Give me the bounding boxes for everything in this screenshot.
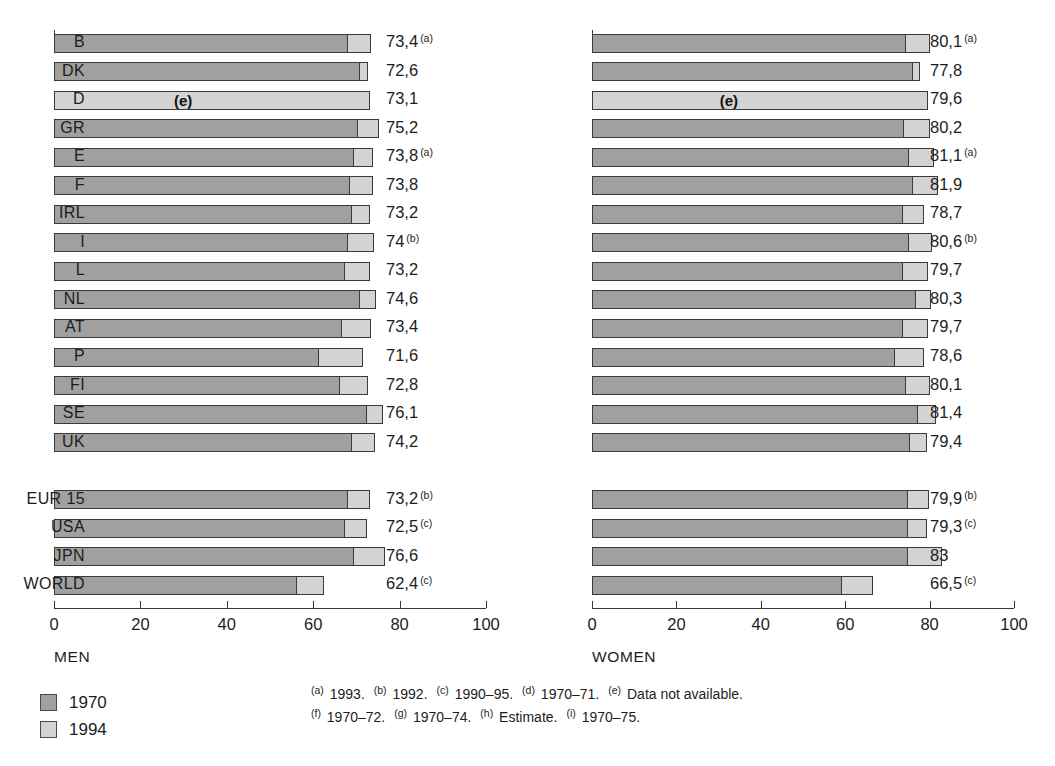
bar-segment-1970 <box>592 376 905 395</box>
bar-segment-1970 <box>54 348 318 367</box>
bar <box>54 290 376 309</box>
bar <box>54 34 371 53</box>
bar-value-label: 75,2 <box>386 118 418 137</box>
bar-value-label: 74(b) <box>386 232 419 251</box>
bar <box>54 576 324 595</box>
legend-item[interactable]: 1970 <box>40 689 107 716</box>
bar-segment-1994 <box>894 348 924 367</box>
bar-segment-1994 <box>912 62 920 81</box>
value-footnote-mark: (b) <box>964 232 977 244</box>
footnote-mark: (i) <box>566 707 575 719</box>
bar-segment-1970 <box>592 205 902 224</box>
bar-segment-1994 <box>54 91 370 110</box>
bar-row-label: USA <box>5 518 85 536</box>
bar-segment-1970 <box>54 34 347 53</box>
bar <box>592 205 924 224</box>
women-x-axis-line <box>592 608 1014 609</box>
bar <box>54 148 373 167</box>
bar-row-label: NL <box>5 290 85 308</box>
bar-segment-1994 <box>347 233 373 252</box>
footnote-entry: (c) 1990–95. <box>437 686 514 702</box>
bar-value-label: 73,2 <box>386 260 418 279</box>
bar-value-label: 80,2 <box>930 118 962 137</box>
footnote-entry: (a) 1993. <box>311 686 365 702</box>
value-footnote-mark: (c) <box>420 574 432 586</box>
bar-row-label: P <box>5 347 85 365</box>
bar-row-label: SE <box>5 404 85 422</box>
bar <box>592 262 928 281</box>
bar-segment-1994 <box>359 62 367 81</box>
bar-value-label: 80,1(a) <box>930 32 977 51</box>
bar-row-label: UK <box>5 433 85 451</box>
bar-value-label: 79,7 <box>930 260 962 279</box>
bar-segment-1994 <box>902 205 924 224</box>
bar-segment-1970 <box>592 547 907 566</box>
bar-row-label: F <box>5 176 85 194</box>
bar-segment-1970 <box>592 405 917 424</box>
bar-row-label: L <box>5 261 85 279</box>
axis-tick <box>54 601 55 608</box>
bar-value-label: 72,8 <box>386 375 418 394</box>
bar-segment-1994 <box>351 433 375 452</box>
bar-value-label: 80,6(b) <box>930 232 977 251</box>
bar-segment-1970 <box>592 62 912 81</box>
axis-tick-label: 60 <box>836 615 854 634</box>
bar-segment-1970 <box>592 262 902 281</box>
bar-value-label: 73,8 <box>386 175 418 194</box>
bar-segment-1994 <box>339 376 369 395</box>
legend-label: 1994 <box>69 720 107 740</box>
value-footnote-mark: (a) <box>420 32 433 44</box>
axis-tick <box>140 601 141 608</box>
bar-segment-1994 <box>344 519 367 538</box>
bar <box>592 576 873 595</box>
axis-tick-label: 40 <box>752 615 770 634</box>
bar-row-label: JPN <box>5 547 85 565</box>
bar-segment-1994 <box>841 576 873 595</box>
bar-value-label: 79,7 <box>930 317 962 336</box>
footnote-mark: (g) <box>394 707 407 719</box>
footnote-mark: (b) <box>374 684 387 696</box>
bar <box>54 376 368 395</box>
bar-segment-1970 <box>592 119 903 138</box>
bar-segment-1970 <box>592 290 915 309</box>
axis-tick-label: 20 <box>667 615 685 634</box>
bar-value-label: 73,4 <box>386 317 418 336</box>
bar-segment-1970 <box>54 576 296 595</box>
bar-row-label: GR <box>5 119 85 137</box>
estimate-marker: (e) <box>720 92 738 109</box>
bar <box>54 348 363 367</box>
footnote-entry: (g) 1970–74. <box>394 709 471 725</box>
value-footnote-mark: (b) <box>420 489 433 501</box>
bar <box>54 547 385 566</box>
axis-tick <box>486 601 487 608</box>
axis-tick-label: 0 <box>49 615 58 634</box>
bar-row-label: FI <box>5 376 85 394</box>
bar-segment-1970 <box>592 490 907 509</box>
bar-segment-1994 <box>353 547 385 566</box>
legend-swatch-icon <box>40 721 57 738</box>
axis-tick-label: 100 <box>472 615 500 634</box>
bar-segment-1970 <box>592 519 907 538</box>
axis-tick-label: 80 <box>390 615 408 634</box>
bar <box>592 62 920 81</box>
legend-item[interactable]: 1994 <box>40 716 107 743</box>
bar-segment-1994 <box>905 376 930 395</box>
bar <box>592 376 930 395</box>
chart-legend: 19701994 <box>40 689 107 743</box>
bar <box>54 405 383 424</box>
bar-segment-1970 <box>54 405 366 424</box>
value-footnote-mark: (a) <box>964 32 977 44</box>
bar <box>592 519 927 538</box>
footnote-entry: (h) Estimate. <box>480 709 557 725</box>
bar-segment-1994 <box>341 319 371 338</box>
axis-tick <box>400 601 401 608</box>
bar-segment-1994 <box>366 405 383 424</box>
bar-segment-1970 <box>592 148 908 167</box>
bar-segment-1994 <box>347 490 370 509</box>
bar-value-label: 73,2(b) <box>386 489 433 508</box>
bar: (e) <box>592 91 928 110</box>
bar <box>592 290 931 309</box>
bar-segment-1994 <box>347 34 371 53</box>
bar-segment-1970 <box>592 176 912 195</box>
axis-tick <box>1014 601 1015 608</box>
